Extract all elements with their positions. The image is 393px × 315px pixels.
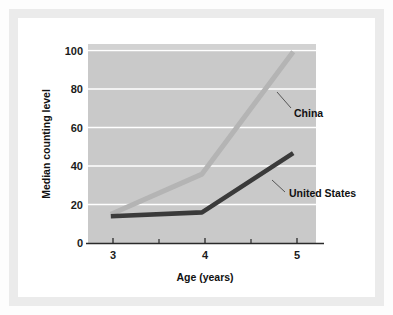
x-tick-label-4: 4: [202, 249, 209, 261]
line-chart: China United States 3 4 5 100 80 60 40 2…: [0, 0, 393, 315]
y-tick-label-100: 100: [65, 45, 83, 57]
y-tick-label-20: 20: [71, 199, 83, 211]
y-axis-title: Median counting level: [40, 89, 52, 199]
y-tick-label-60: 60: [71, 122, 83, 134]
y-tick-label-0: 0: [77, 237, 83, 249]
figure-container: China United States 3 4 5 100 80 60 40 2…: [0, 0, 393, 315]
x-tick-label-3: 3: [110, 249, 116, 261]
plot-top-band: [88, 44, 316, 49]
x-axis-title: Age (years): [176, 271, 233, 283]
series-label-united-states: United States: [289, 187, 356, 199]
x-tick-label-5: 5: [294, 249, 300, 261]
y-tick-label-40: 40: [71, 160, 83, 172]
series-label-china: China: [294, 107, 323, 119]
y-tick-label-80: 80: [71, 83, 83, 95]
